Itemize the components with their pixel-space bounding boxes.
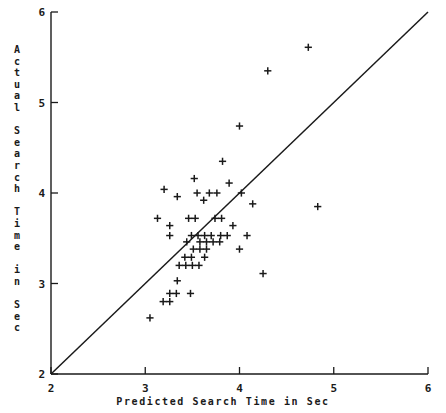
data-point: [203, 238, 210, 245]
y-axis-title-char: [8, 195, 26, 207]
y-axis-title-char: [8, 114, 26, 126]
data-point: [161, 186, 168, 193]
data-point: [188, 232, 195, 239]
plot-area: 23456 23456: [0, 0, 446, 413]
data-point: [243, 232, 250, 239]
y-axis-title-char: c: [8, 56, 26, 68]
data-point: [193, 189, 200, 196]
data-point: [146, 314, 153, 321]
data-point: [182, 262, 189, 269]
data-point-markers: [146, 44, 321, 322]
x-tick-label-3: 3: [142, 383, 149, 394]
x-tick-label-5: 5: [330, 383, 337, 394]
data-point: [206, 189, 213, 196]
y-axis-title-char: [8, 253, 26, 265]
y-tick-label-6: 6: [33, 7, 45, 18]
y-axis-title-char: u: [8, 79, 26, 91]
y-axis-title: Actual Search Time in Sec: [8, 44, 26, 334]
data-point: [226, 179, 233, 186]
x-tick-label-2: 2: [48, 383, 55, 394]
plot-canvas: [0, 0, 446, 413]
data-point: [196, 246, 203, 253]
y-axis-title-char: S: [8, 125, 26, 137]
data-point: [213, 189, 220, 196]
data-point: [166, 290, 173, 297]
y-axis-title-char: a: [8, 148, 26, 160]
data-point: [314, 203, 321, 210]
data-point: [185, 215, 192, 222]
data-point: [194, 232, 201, 239]
y-axis-title-char: T: [8, 206, 26, 218]
y-axis-title-char: l: [8, 102, 26, 114]
x-axis-title: Predicted Search Time in Sec: [0, 396, 446, 407]
data-point: [305, 44, 312, 51]
data-point: [166, 298, 173, 305]
data-point: [211, 215, 218, 222]
data-point: [160, 298, 167, 305]
x-axis-ticks: [51, 367, 428, 374]
y-axis-title-char: i: [8, 264, 26, 276]
y-axis-title-char: t: [8, 67, 26, 79]
data-point: [191, 175, 198, 182]
data-point: [187, 290, 194, 297]
y-axis-title-char: a: [8, 90, 26, 102]
y-axis-title-char: i: [8, 218, 26, 230]
data-point: [210, 238, 217, 245]
data-point: [229, 222, 236, 229]
y-axis-title-char: h: [8, 183, 26, 195]
data-point: [259, 270, 266, 277]
y-axis-title-char: [8, 287, 26, 299]
y-axis-ticks: [51, 12, 58, 374]
y-axis-title-char: r: [8, 160, 26, 172]
data-point: [196, 238, 203, 245]
data-point: [203, 246, 210, 253]
data-point: [217, 232, 224, 239]
data-point: [174, 193, 181, 200]
data-point: [195, 262, 202, 269]
x-tick-label-4: 4: [236, 383, 243, 394]
data-point: [183, 238, 190, 245]
data-point: [154, 215, 161, 222]
data-point: [264, 67, 271, 74]
x-tick-label-6: 6: [425, 383, 432, 394]
data-point: [176, 262, 183, 269]
data-point: [201, 232, 208, 239]
y-tick-label-2: 2: [33, 369, 45, 380]
data-point: [218, 215, 225, 222]
y-axis-title-char: e: [8, 311, 26, 323]
y-axis-title-char: e: [8, 241, 26, 253]
data-point: [166, 222, 173, 229]
y-tick-label-3: 3: [33, 278, 45, 289]
data-point: [173, 290, 180, 297]
data-point: [188, 254, 195, 261]
data-point: [236, 246, 243, 253]
y-axis-title-char: e: [8, 137, 26, 149]
data-point: [166, 232, 173, 239]
data-point: [190, 246, 197, 253]
data-point: [236, 122, 243, 129]
data-point: [238, 189, 245, 196]
y-axis-title-char: S: [8, 299, 26, 311]
y-axis-title-char: n: [8, 276, 26, 288]
data-point: [174, 277, 181, 284]
y-tick-label-4: 4: [33, 188, 45, 199]
data-point: [181, 254, 188, 261]
data-point: [219, 158, 226, 165]
y-tick-label-5: 5: [33, 97, 45, 108]
data-point: [249, 200, 256, 207]
data-point: [224, 232, 231, 239]
data-point: [208, 232, 215, 239]
data-point: [189, 262, 196, 269]
y-axis-title-char: A: [8, 44, 26, 56]
y-axis-title-char: c: [8, 322, 26, 334]
scatter-plot-screenshot: 23456 23456 Predicted Search Time in Sec…: [0, 0, 446, 413]
data-point: [200, 197, 207, 204]
data-point: [216, 238, 223, 245]
y-axis-title-char: c: [8, 172, 26, 184]
y-axis-title-char: m: [8, 230, 26, 242]
data-point: [192, 215, 199, 222]
data-point: [201, 254, 208, 261]
